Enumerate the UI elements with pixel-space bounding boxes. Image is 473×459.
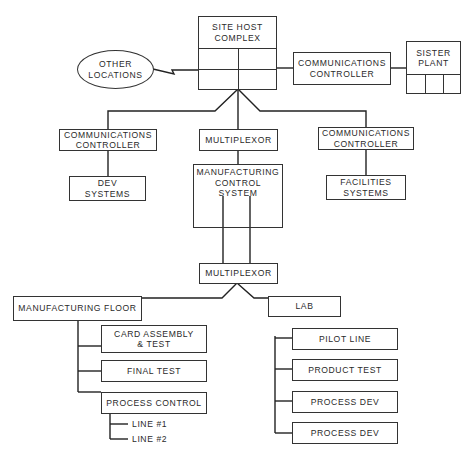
cc-right-line2: CONTROLLER xyxy=(334,139,399,150)
other-locations-ellipse: OTHER LOCATIONS xyxy=(77,50,154,89)
product-test-box: PRODUCT TEST xyxy=(292,359,398,381)
card-assembly-line1: CARD ASSEMBLY xyxy=(114,329,194,340)
lab-box: LAB xyxy=(268,296,341,317)
multiplexor-bottom-box: MULTIPLEXOR xyxy=(199,263,278,284)
site-host-line2: COMPLEX xyxy=(214,33,260,44)
line-2-label: LINE #2 xyxy=(132,434,167,444)
communications-controller-left-box: COMMUNICATIONS CONTROLLER xyxy=(59,129,157,151)
site-host-cell xyxy=(198,69,239,90)
pilot-line-box: PILOT LINE xyxy=(292,328,398,350)
process-dev-box: PROCESS DEV xyxy=(292,391,398,413)
cc-top-line2: CONTROLLER xyxy=(310,69,375,80)
process-dev-label: PROCESS DEV xyxy=(311,397,380,408)
other-locations-line2: LOCATIONS xyxy=(88,70,142,81)
site-host-line1: SITE HOST xyxy=(212,22,263,33)
facilities-systems-box: FACILITIES SYSTEMS xyxy=(326,175,406,200)
multiplexor-top-label: MULTIPLEXOR xyxy=(205,135,272,146)
facilities-line2: SYSTEMS xyxy=(343,188,388,199)
card-assembly-line2: & TEST xyxy=(137,339,171,350)
site-host-cell xyxy=(238,48,277,70)
sister-plant-cell xyxy=(425,74,444,94)
card-assembly-test-box: CARD ASSEMBLY & TEST xyxy=(101,325,207,353)
communications-controller-right-box: COMMUNICATIONS CONTROLLER xyxy=(318,127,414,150)
communications-controller-top-box: COMMUNICATIONS CONTROLLER xyxy=(293,52,391,85)
product-test-label: PRODUCT TEST xyxy=(308,365,382,376)
site-host-cell xyxy=(238,69,277,90)
manufacturing-control-system-box: MANUFACTURING CONTROL SYSTEM xyxy=(193,164,283,228)
mcs-line3: SYSTEM xyxy=(219,188,258,199)
multiplexor-bottom-label: MULTIPLEXOR xyxy=(205,268,272,279)
cc-top-line1: COMMUNICATIONS xyxy=(298,58,386,69)
manufacturing-floor-label: MANUFACTURING FLOOR xyxy=(18,303,136,314)
process-dev-box: PROCESS DEV xyxy=(292,422,398,444)
sister-plant-cell xyxy=(443,74,461,94)
multiplexor-top-box: MULTIPLEXOR xyxy=(199,129,278,151)
cc-left-line2: CONTROLLER xyxy=(76,140,141,151)
lab-label: LAB xyxy=(295,301,313,312)
final-test-label: FINAL TEST xyxy=(127,366,181,377)
manufacturing-floor-box: MANUFACTURING FLOOR xyxy=(13,296,142,321)
line-1-label: LINE #1 xyxy=(132,419,167,429)
dev-systems-line2: SYSTEMS xyxy=(85,189,130,200)
process-control-label: PROCESS CONTROL xyxy=(106,398,201,409)
cc-right-line1: COMMUNICATIONS xyxy=(322,128,410,139)
cc-left-line1: COMMUNICATIONS xyxy=(64,130,152,141)
pilot-line-label: PILOT LINE xyxy=(319,334,371,345)
sister-plant-cell xyxy=(406,74,426,94)
other-locations-line1: OTHER xyxy=(99,59,132,70)
sister-plant-line2: PLANT xyxy=(418,58,449,69)
process-dev-label: PROCESS DEV xyxy=(311,428,380,439)
final-test-box: FINAL TEST xyxy=(101,360,207,382)
mcs-line2: CONTROL xyxy=(215,178,261,189)
process-control-box: PROCESS CONTROL xyxy=(101,392,207,414)
facilities-line1: FACILITIES xyxy=(340,177,391,188)
mcs-line1: MANUFACTURING xyxy=(197,167,280,178)
site-host-complex-box: SITE HOST COMPLEX xyxy=(198,16,277,49)
dev-systems-line1: DEV xyxy=(98,178,117,189)
dev-systems-box: DEV SYSTEMS xyxy=(69,176,146,201)
sister-plant-line1: SISTER xyxy=(416,48,451,59)
site-host-cell xyxy=(198,48,239,70)
sister-plant-box: SISTER PLANT xyxy=(406,41,461,75)
